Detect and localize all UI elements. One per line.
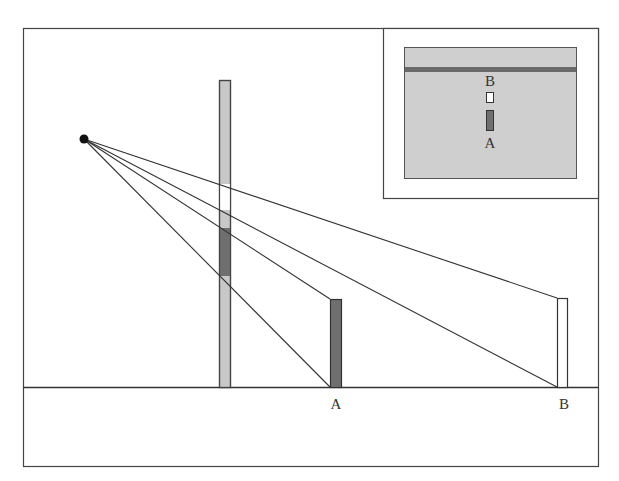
projection-of-a bbox=[220, 228, 230, 276]
eye-point bbox=[80, 135, 89, 144]
diagram-canvas: A B B A bbox=[0, 0, 619, 481]
object-a bbox=[331, 300, 342, 388]
inset-view: B A bbox=[384, 29, 599, 199]
inset-label-b: B bbox=[485, 73, 495, 89]
inset-image-b bbox=[487, 93, 494, 103]
picture-plane bbox=[220, 81, 231, 388]
object-b bbox=[558, 299, 568, 388]
inset-image-a bbox=[487, 111, 494, 131]
inset-horizon-band bbox=[405, 67, 576, 72]
label-a: A bbox=[331, 396, 342, 412]
label-b: B bbox=[559, 396, 569, 412]
inset-label-a: A bbox=[485, 135, 496, 151]
